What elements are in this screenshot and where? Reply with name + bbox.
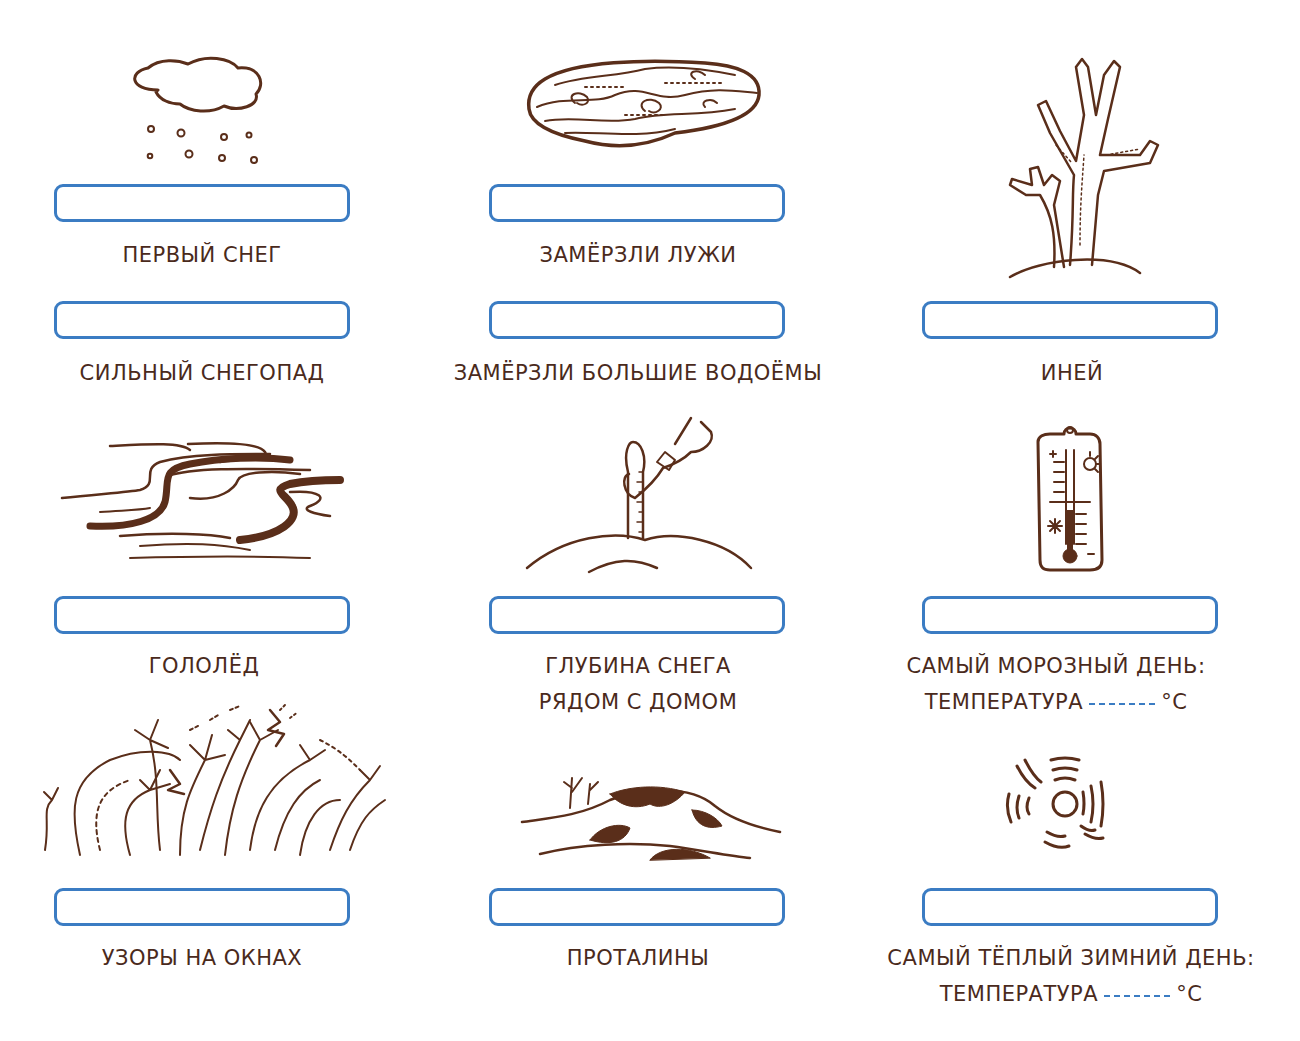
ice-swirl-icon [60, 440, 340, 560]
frozen-puddle-icon [525, 55, 765, 155]
label-warmest-day: САМЫЙ ТЁПЛЫЙ ЗИМНИЙ ДЕНЬ: ТЕМПЕРАТУРА°C [856, 940, 1286, 1012]
label-coldest-day-line2: ТЕМПЕРАТУРА°C [846, 684, 1266, 720]
answer-box-warmest-day[interactable] [922, 888, 1218, 926]
label-snow-depth-line1: ГЛУБИНА СНЕГА [428, 648, 848, 684]
label-puddles-frozen: ЗАМЁРЗЛИ ЛУЖИ [428, 237, 848, 273]
label-black-ice: ГОЛОЛЁД [0, 648, 414, 684]
answer-box-hoarfrost[interactable] [922, 301, 1218, 339]
unit-celsius: °C [1176, 982, 1202, 1006]
sun-icon [1005, 752, 1125, 862]
answer-box-frost-patterns[interactable] [54, 888, 350, 926]
label-warmest-day-prefix: ТЕМПЕРАТУРА [940, 982, 1098, 1006]
temperature-blank-warmest[interactable] [1104, 995, 1170, 997]
answer-box-heavy-snowfall[interactable] [54, 301, 350, 339]
label-hoarfrost: ИНЕЙ [862, 355, 1282, 391]
thawed-hill-icon [510, 760, 780, 860]
header-fragment [160, 0, 1040, 6]
answer-box-large-ponds-frozen[interactable] [489, 301, 785, 339]
label-snow-depth: ГЛУБИНА СНЕГА РЯДОМ С ДОМОМ [428, 648, 848, 720]
label-frost-patterns: УЗОРЫ НА ОКНАХ [0, 940, 412, 976]
temperature-blank-coldest[interactable] [1089, 703, 1155, 705]
frost-pattern-icon [40, 700, 385, 860]
label-thawed-patches: ПРОТАЛИНЫ [428, 940, 848, 976]
unit-celsius: °C [1161, 690, 1187, 714]
label-coldest-day-line1: САМЫЙ МОРОЗНЫЙ ДЕНЬ: [846, 648, 1266, 684]
label-warmest-day-line1: САМЫЙ ТЁПЛЫЙ ЗИМНИЙ ДЕНЬ: [856, 940, 1286, 976]
label-coldest-day-prefix: ТЕМПЕРАТУРА [925, 690, 1083, 714]
answer-box-thawed-patches[interactable] [489, 888, 785, 926]
label-heavy-snowfall: СИЛЬНЫЙ СНЕГОПАД [0, 355, 412, 391]
answer-box-black-ice[interactable] [54, 596, 350, 634]
label-first-snow: ПЕРВЫЙ СНЕГ [0, 237, 412, 273]
answer-box-first-snow[interactable] [54, 184, 350, 222]
answer-box-snow-depth[interactable] [489, 596, 785, 634]
thermometer-icon [1030, 422, 1110, 572]
label-coldest-day: САМЫЙ МОРОЗНЫЙ ДЕНЬ: ТЕМПЕРАТУРА°C [846, 648, 1266, 720]
label-snow-depth-line2: РЯДОМ С ДОМОМ [428, 684, 848, 720]
answer-box-puddles-frozen[interactable] [489, 184, 785, 222]
answer-box-coldest-day[interactable] [922, 596, 1218, 634]
ruler-in-snow-icon [525, 412, 755, 572]
label-warmest-day-line2: ТЕМПЕРАТУРА°C [856, 976, 1286, 1012]
frosted-tree-icon [980, 45, 1180, 277]
label-large-ponds-frozen: ЗАМЁРЗЛИ БОЛЬШИЕ ВОДОЁМЫ [428, 355, 848, 391]
snow-cloud-icon [120, 50, 280, 170]
